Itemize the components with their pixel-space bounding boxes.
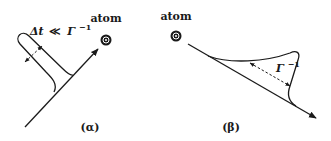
svg-text:Δt ≪ Γ: Δt ≪ Γ −1 <box>29 22 91 38</box>
panel-alpha: atom Δt ≪ Γ −1 (α) <box>18 12 122 134</box>
exponent-beta: −1 <box>288 59 300 69</box>
delta-t-symbol: Δt <box>29 25 44 38</box>
panel-beta: atom Γ −1 (β) <box>160 10 316 134</box>
gamma-symbol-beta: Γ <box>275 62 285 75</box>
width-marker-alpha <box>25 46 42 62</box>
atom-label-alpha: atom <box>90 12 122 25</box>
diagram-canvas: atom Δt ≪ Γ −1 (α) atom <box>0 0 331 141</box>
delta-t-annotation: Δt ≪ Γ −1 <box>29 22 91 38</box>
propagation-line-beta <box>188 44 316 118</box>
wave-packet-envelope-beta <box>208 52 299 106</box>
caption-beta: (β) <box>222 121 240 134</box>
exponent-alpha: −1 <box>79 22 91 32</box>
atom-icon-alpha <box>101 35 112 46</box>
atom-label-beta: atom <box>160 10 192 23</box>
gamma-annotation-beta: Γ −1 <box>275 59 300 75</box>
much-less-symbol: ≪ <box>49 25 61 38</box>
wave-packet-envelope-alpha <box>18 33 73 92</box>
gamma-symbol-alpha: Γ <box>66 25 76 38</box>
atom-icon-beta <box>171 31 182 42</box>
caption-alpha: (α) <box>81 121 100 134</box>
